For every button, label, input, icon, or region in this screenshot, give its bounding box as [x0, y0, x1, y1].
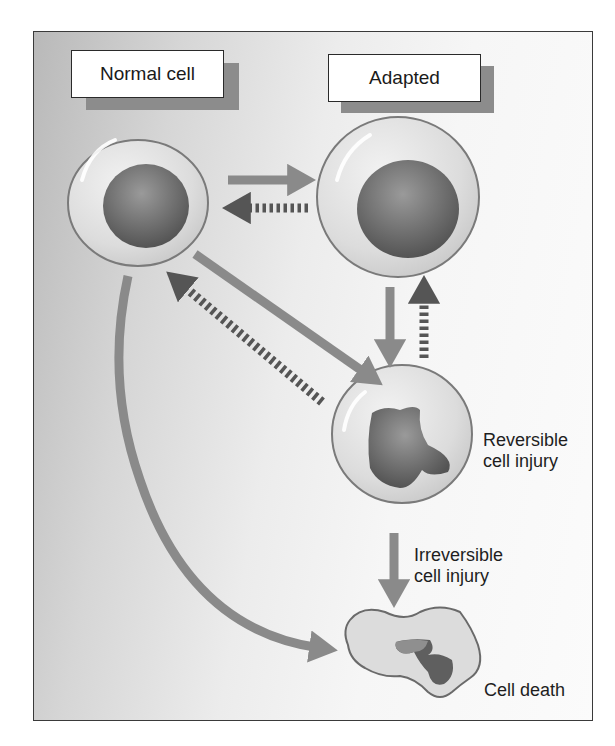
dead-cell-icon: [345, 608, 480, 698]
irreversible-line2: cell injury: [414, 566, 503, 587]
adapted-text: Adapted: [369, 67, 440, 89]
reversible-line2: cell injury: [483, 451, 568, 472]
irreversible-injury-label: Irreversible cell injury: [414, 545, 503, 587]
cell-death-label: Cell death: [484, 680, 565, 701]
adapted-label: Adapted: [328, 54, 481, 102]
reversible-injury-label: Reversible cell injury: [483, 430, 568, 472]
irreversible-line1: Irreversible: [414, 545, 503, 566]
arrow-reversible-to-normal: [180, 283, 322, 402]
normal-cell-icon: [68, 140, 208, 266]
cell-death-text: Cell death: [484, 680, 565, 700]
cell-injury-diagram: [0, 0, 615, 746]
adapted-cell-icon: [317, 117, 479, 277]
arrow-normal-to-death: [119, 276, 320, 648]
normal-cell-text: Normal cell: [100, 63, 195, 85]
reversible-line1: Reversible: [483, 430, 568, 451]
reversible-injury-cell-icon: [332, 365, 472, 503]
normal-cell-label: Normal cell: [71, 50, 224, 98]
